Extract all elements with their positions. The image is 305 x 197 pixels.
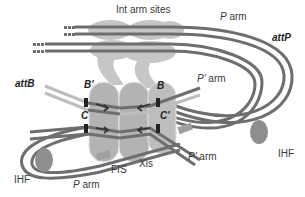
p-arm-bottom-rest: arm [80, 179, 100, 190]
p-prime-arm-upper-rest: arm [206, 73, 226, 84]
fis-label: FIS [111, 165, 127, 175]
ihf-right [250, 120, 268, 144]
c-prime-label: C' [160, 111, 170, 121]
int-arm-protein [88, 20, 184, 88]
p-prime-arm-lower-label: P' arm [188, 152, 217, 162]
int-arm-sites-label: Int arm sites [116, 5, 170, 15]
p-arm-bottom-label: P arm [73, 180, 100, 190]
ihf-left [35, 148, 53, 172]
p-arm-top-italic: P [220, 11, 227, 22]
p-prime-arm-upper-italic: P' [197, 73, 206, 84]
b-label: B [157, 81, 164, 91]
p-prime-arm-upper-label: P' arm [197, 74, 226, 84]
ihf-left-label: IHF [14, 175, 30, 185]
attb-label: attB [15, 79, 34, 89]
p-prime-arm-lower-rest: arm [197, 151, 217, 162]
b-prime-label: B' [84, 80, 94, 90]
xis-label: Xis [139, 159, 153, 169]
p-arm-bottom-italic: P [73, 179, 80, 190]
dna-dashed-ends [33, 26, 75, 53]
ihf-right-label: IHF [278, 149, 294, 159]
attp-label: attP [272, 33, 291, 43]
p-arm-top-label: P arm [220, 12, 247, 22]
p-arm-top-rest: arm [227, 11, 247, 22]
c-label: C [81, 111, 88, 121]
p-prime-arm-lower-italic: P' [188, 151, 197, 162]
